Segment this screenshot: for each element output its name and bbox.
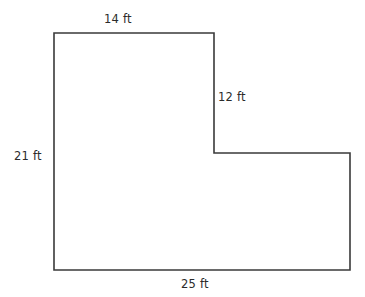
dimension-label-left: 21 ft: [14, 149, 42, 163]
l-shape-outline: [54, 33, 350, 270]
dimension-label-bottom: 25 ft: [181, 277, 209, 291]
dimension-label-top: 14 ft: [104, 12, 132, 26]
polygon-diagram: [0, 0, 365, 297]
dimension-label-right: 12 ft: [218, 90, 246, 104]
